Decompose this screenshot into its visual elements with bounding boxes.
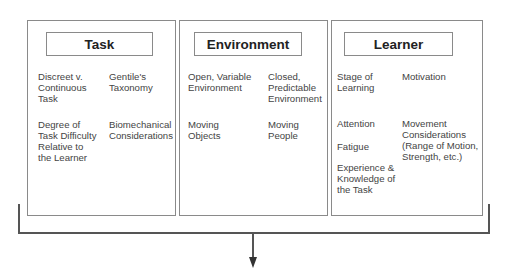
bracket-right-leg bbox=[488, 204, 490, 234]
bracket-bottom bbox=[18, 232, 490, 234]
learner-item-motivation: Motivation bbox=[402, 71, 446, 82]
environment-item-closed-predictable: Closed, Predictable Environment bbox=[268, 71, 322, 104]
learner-item-attention: Attention bbox=[337, 118, 375, 129]
task-item-degree-of-difficulty: Degree of Task Difficulty Relative to th… bbox=[38, 119, 96, 163]
task-item-biomechanical: Biomechanical Considerations bbox=[109, 119, 173, 141]
learner-item-experience-knowledge: Experience & Knowledge of the Task bbox=[337, 162, 395, 195]
panel-task-title: Task bbox=[46, 32, 153, 56]
environment-item-open-variable: Open, Variable Environment bbox=[188, 71, 251, 93]
arrow-shaft bbox=[252, 233, 254, 259]
arrow-down-icon bbox=[249, 257, 257, 268]
environment-item-moving-objects: Moving Objects bbox=[188, 119, 221, 141]
learner-item-movement-considerations: Movement Considerations (Range of Motion… bbox=[402, 118, 478, 162]
environment-item-moving-people: Moving People bbox=[268, 119, 299, 141]
task-item-discreet-continuous: Discreet v. Continuous Task bbox=[38, 71, 87, 104]
bracket-left-leg bbox=[18, 204, 20, 234]
learner-item-fatigue: Fatigue bbox=[337, 141, 369, 152]
panel-learner-title: Learner bbox=[344, 32, 453, 56]
learner-item-stage-of-learning: Stage of Learning bbox=[337, 71, 374, 93]
task-item-gentiles-taxonomy: Gentile's Taxonomy bbox=[109, 71, 153, 93]
panel-environment-title: Environment bbox=[194, 32, 302, 56]
